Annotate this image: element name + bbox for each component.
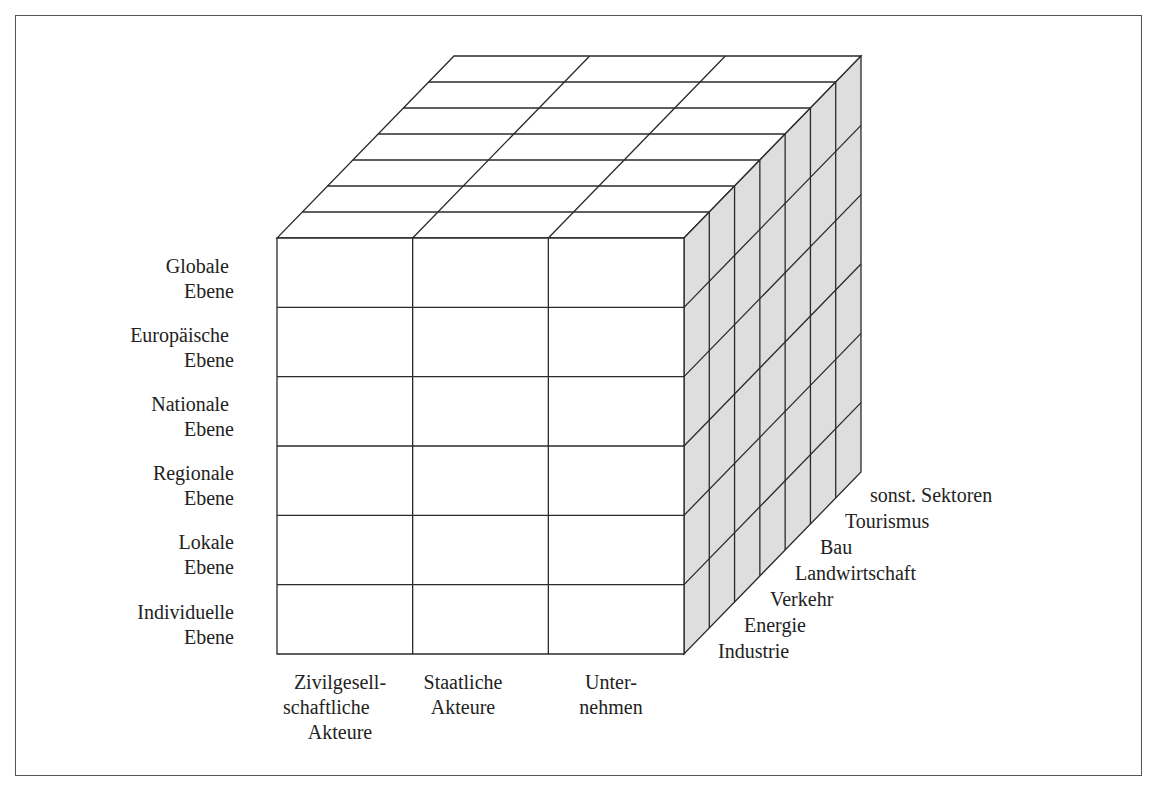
level-label-global: Globale Ebene <box>34 254 234 304</box>
actor-label-line: Akteure <box>403 695 523 720</box>
level-label-line1: Lokale <box>34 530 234 555</box>
level-label-line1: Individuelle <box>34 600 234 625</box>
level-label-line2: Ebene <box>34 279 234 304</box>
sector-label-agriculture: Landwirtschaft <box>795 561 916 586</box>
sector-label-transport: Verkehr <box>770 587 833 612</box>
sector-label-tourism: Tourismus <box>845 509 929 534</box>
level-label-local: Lokale Ebene <box>34 530 234 580</box>
actor-label-state: Staatliche Akteure <box>403 670 523 720</box>
actor-label-line: nehmen <box>551 695 671 720</box>
actor-label-line: Unter- <box>551 670 671 695</box>
sector-label-industry: Industrie <box>718 639 789 664</box>
level-label-national: Nationale Ebene <box>34 392 234 442</box>
actor-label-civil-society: Zivilgesell- schaftliche Akteure <box>270 670 410 745</box>
level-label-individual: Individuelle Ebene <box>34 600 234 650</box>
sector-label-other: sonst. Sektoren <box>870 483 992 508</box>
level-label-line2: Ebene <box>34 348 234 373</box>
actor-label-line: Zivilgesell- <box>270 670 410 695</box>
level-label-line2: Ebene <box>34 625 234 650</box>
level-label-line2: Ebene <box>34 486 234 511</box>
level-label-line2: Ebene <box>34 555 234 580</box>
level-label-line1: Nationale <box>34 392 234 417</box>
actor-label-companies: Unter- nehmen <box>551 670 671 720</box>
sector-label-construction: Bau <box>820 535 852 560</box>
level-label-european: Europäische Ebene <box>34 323 234 373</box>
level-label-line1: Globale <box>34 254 234 279</box>
actor-label-line: Akteure <box>270 720 410 745</box>
actor-label-line: schaftliche <box>270 695 410 720</box>
actor-label-line: Staatliche <box>403 670 523 695</box>
sector-label-energy: Energie <box>744 613 806 638</box>
level-label-regional: Regionale Ebene <box>34 461 234 511</box>
level-label-line2: Ebene <box>34 417 234 442</box>
level-label-line1: Regionale <box>34 461 234 486</box>
level-label-line1: Europäische <box>34 323 234 348</box>
